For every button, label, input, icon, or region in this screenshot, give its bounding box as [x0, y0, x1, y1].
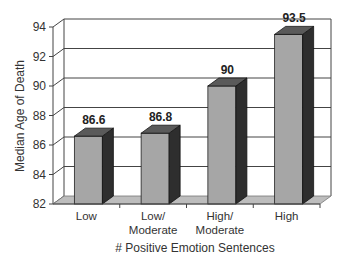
gridline-diagonal: [53, 108, 64, 116]
bar-side: [169, 125, 180, 204]
bar-front: [275, 34, 303, 204]
x-tick-label: High: [275, 210, 299, 222]
bar-front: [208, 86, 236, 204]
x-tick-label: High/: [206, 210, 234, 222]
bar-front: [141, 133, 169, 204]
bar-chart: 8284868890929486.6Low86.8Low/Moderate90H…: [0, 0, 356, 264]
y-axis-title: Median Age of Death: [13, 60, 27, 172]
gridline-diagonal: [53, 49, 64, 57]
bar-front: [74, 136, 102, 204]
bar-side: [303, 26, 314, 204]
y-tick-label: 86: [33, 138, 47, 152]
bar-side: [236, 78, 247, 204]
gridline-diagonal: [53, 137, 64, 145]
data-label: 90: [221, 63, 235, 77]
y-tick-label: 84: [33, 168, 47, 182]
x-tick-label: Moderate: [196, 224, 245, 236]
data-label: 86.8: [149, 110, 173, 124]
x-axis-title: # Positive Emotion Sentences: [115, 241, 274, 255]
x-tick-label: Moderate: [129, 224, 178, 236]
x-tick-label: Low/: [141, 210, 166, 222]
y-tick-label: 90: [33, 79, 47, 93]
y-tick-label: 88: [33, 109, 47, 123]
gridline-diagonal: [53, 19, 64, 27]
data-label: 86.6: [82, 113, 106, 127]
y-tick-label: 94: [33, 20, 47, 34]
x-tick-label: Low: [76, 210, 98, 222]
y-tick-label: 92: [33, 50, 47, 64]
bar-side: [102, 128, 113, 204]
y-tick-label: 82: [33, 197, 47, 211]
gridline-diagonal: [53, 167, 64, 175]
data-label: 93.5: [282, 11, 306, 25]
gridline-diagonal: [53, 78, 64, 86]
